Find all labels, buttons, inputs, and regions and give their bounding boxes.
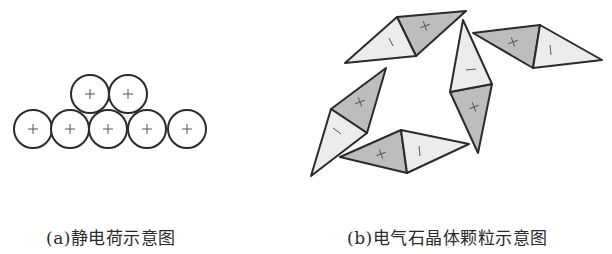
negative-half (401, 130, 469, 173)
charge-circle (128, 110, 166, 148)
tourmaline-particles-diagram (311, 11, 602, 176)
charge-circle (168, 110, 206, 148)
tourmaline-particle-top (345, 11, 466, 63)
positive-half (473, 25, 540, 68)
caption-tourmaline-particles: (b)电气石晶体颗粒示意图 (347, 224, 548, 249)
charge-circle (51, 110, 89, 148)
caption-static-charge: (a)静电荷示意图 (46, 224, 176, 249)
charge-circle (14, 110, 52, 148)
tourmaline-particle-right (473, 25, 602, 68)
charge-circle (71, 75, 109, 113)
charge-circle (89, 110, 127, 148)
charge-circle (109, 75, 147, 113)
negative-half (533, 25, 602, 68)
diagram-canvas (0, 0, 612, 254)
static-charge-diagram (14, 75, 206, 148)
